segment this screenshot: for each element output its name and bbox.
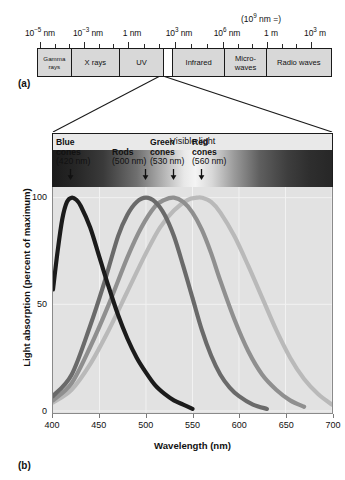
em-scale-label: 1 m: [264, 28, 278, 38]
x-axis-title: Wavelength (nm): [52, 440, 333, 451]
em-band-gamma-rays: Gamma rays: [38, 49, 72, 76]
em-band-infrared: Infrared: [173, 49, 226, 76]
em-scale-label: 10−5 nm: [25, 28, 55, 38]
arrow-head: [199, 175, 205, 180]
x-tick-mark: [239, 414, 240, 418]
arrow-head: [143, 175, 149, 180]
em-band-label: Infrared: [185, 58, 213, 67]
em-band-visible-light: Visible light: [164, 49, 173, 76]
x-tick-mark: [333, 414, 334, 418]
em-band-label: X rays: [84, 58, 108, 67]
em-band-bar: Gamma raysX raysUVVisible lightInfraredM…: [37, 48, 332, 77]
peak-arrow-rods: [142, 169, 149, 180]
em-band-label: Micro- waves: [225, 54, 265, 72]
em-band-x-rays: X rays: [72, 49, 120, 76]
x-tick-label: 500: [129, 420, 163, 430]
em-band-label: UV: [135, 58, 148, 67]
peak-annotation-rods: Rods(500 nm): [112, 148, 146, 167]
peak-annotation-green-cones: Greencones(530 nm): [150, 138, 184, 167]
peak-arrow-blue-cones: [67, 169, 74, 180]
x-tick-mark: [193, 414, 194, 418]
arrow-head: [68, 175, 74, 180]
x-tick-mark: [286, 414, 287, 418]
panel-b-label: (b): [18, 460, 31, 471]
x-tick-label: 700: [316, 420, 345, 430]
em-scale-label: 103 m: [304, 28, 326, 38]
x-tick-label: 400: [35, 420, 69, 430]
peak-annotation-wavelength: (560 nm): [192, 157, 226, 167]
em-band-label: Visible light: [164, 54, 173, 72]
peak-annotation-wavelength: (420 nm): [56, 157, 90, 167]
y-axis-title: Light absorption (percent of maximum): [21, 173, 32, 383]
em-band-label: Gamma rays: [38, 55, 71, 71]
em-band-label: Radio waves: [276, 58, 321, 67]
magnification-connector-lines: [0, 76, 339, 132]
peak-annotation-blue-cones: Bluecones(420 nm): [56, 138, 90, 167]
absorption-spectra-panel: Visible light Bluecones(420 nm)Rods(500 …: [0, 128, 339, 480]
peak-arrow-red-cones: [198, 169, 205, 180]
x-tick-mark: [99, 414, 100, 418]
em-band-radio-waves: Radio waves: [267, 49, 331, 76]
em-scale-label: 106 nm: [214, 28, 241, 38]
peak-annotation-wavelength: (500 nm): [112, 157, 146, 167]
x-tick-label: 450: [82, 420, 116, 430]
electromagnetic-spectrum-panel: (109 nm =) 10−5 nm10−3 nm1 nm103 nm106 n…: [0, 0, 339, 98]
em-band-uv: UV: [120, 49, 164, 76]
plot-area: [52, 187, 333, 414]
arrow-head: [171, 175, 177, 180]
peak-arrow-green-cones: [170, 169, 177, 180]
x-tick-label: 550: [176, 420, 210, 430]
y-tick-label: 0: [21, 406, 47, 416]
x-tick-mark: [146, 414, 147, 418]
panel-a-label: (a): [18, 78, 30, 89]
em-scale-label-row: 10−5 nm10−3 nm1 nm103 nm106 nm1 m103 m: [0, 28, 339, 42]
peak-annotation-red-cones: Redcones(560 nm): [192, 138, 226, 167]
em-band-micro-waves: Micro- waves: [225, 49, 266, 76]
absorption-curves-svg: [53, 187, 332, 413]
x-tick-mark: [52, 414, 53, 418]
em-scale-note: (109 nm =): [241, 14, 281, 24]
em-scale-label: 10−3 nm: [73, 28, 103, 38]
em-scale-label: 103 nm: [166, 28, 193, 38]
x-tick-label: 600: [222, 420, 256, 430]
em-scale-label: 1 nm: [123, 28, 142, 38]
x-tick-label: 650: [269, 420, 303, 430]
peak-annotation-wavelength: (530 nm): [150, 157, 184, 167]
